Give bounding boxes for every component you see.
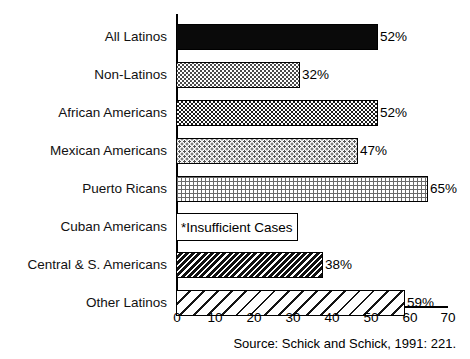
insufficient-cases-note: *Insufficient Cases — [176, 213, 298, 241]
x-tick-10: 10 — [207, 310, 222, 325]
category-label-central-s-americans: Central & S. Americans — [0, 246, 172, 284]
bar-mexican-americans — [176, 138, 358, 164]
x-tick-30: 30 — [285, 310, 300, 325]
x-tick-70: 70 — [440, 310, 455, 325]
bar-rows: 52% 32% 52% 47% 65% *Insufficient Cases — [176, 18, 448, 322]
bar-row-mexican-americans: 47% — [176, 132, 448, 170]
source-caption: Source: Schick and Schick, 1991: 221. — [0, 336, 456, 351]
category-label-all-latinos: All Latinos — [0, 18, 172, 56]
bar-row-african-americans: 52% — [176, 94, 448, 132]
category-label-puerto-ricans: Puerto Ricans — [0, 170, 172, 208]
x-tick-40: 40 — [324, 310, 339, 325]
x-axis-tick-labels: 0 10 20 30 40 50 60 70 — [176, 310, 448, 330]
bar-all-latinos — [176, 24, 378, 50]
bar-central-s-americans — [176, 252, 323, 278]
category-label-mexican-americans: Mexican Americans — [0, 132, 172, 170]
x-tick-0: 0 — [173, 310, 181, 325]
bar-chart: All Latinos Non-Latinos African American… — [0, 0, 470, 359]
bar-row-cuban-americans: *Insufficient Cases — [176, 208, 448, 246]
bar-row-puerto-ricans: 65% — [176, 170, 448, 208]
bar-value-african-americans: 52% — [378, 100, 407, 126]
bar-row-all-latinos: 52% — [176, 18, 448, 56]
category-axis-labels: All Latinos Non-Latinos African American… — [0, 18, 172, 322]
bar-row-central-s-americans: 38% — [176, 246, 448, 284]
x-tick-60: 60 — [402, 310, 417, 325]
plot-area: 52% 32% 52% 47% 65% *Insufficient Cases — [176, 14, 448, 314]
bar-value-non-latinos: 32% — [300, 62, 329, 88]
bar-african-americans — [176, 100, 378, 126]
bar-puerto-ricans — [176, 176, 428, 202]
x-tick-50: 50 — [363, 310, 378, 325]
bar-value-puerto-ricans: 65% — [428, 176, 457, 202]
category-label-non-latinos: Non-Latinos — [0, 56, 172, 94]
category-label-cuban-americans: Cuban Americans — [0, 208, 172, 246]
x-tick-20: 20 — [246, 310, 261, 325]
bar-row-non-latinos: 32% — [176, 56, 448, 94]
category-label-other-latinos: Other Latinos — [0, 284, 172, 322]
category-label-african-americans: African Americans — [0, 94, 172, 132]
bar-non-latinos — [176, 62, 300, 88]
bar-value-central-s-americans: 38% — [323, 252, 352, 278]
bar-value-all-latinos: 52% — [378, 24, 407, 50]
bar-value-mexican-americans: 47% — [358, 138, 387, 164]
